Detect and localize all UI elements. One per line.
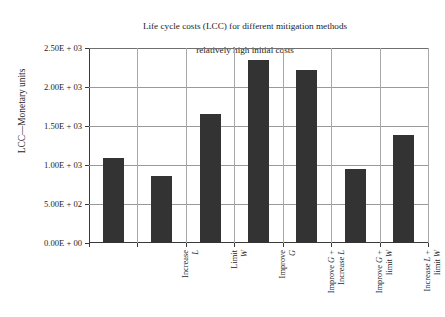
bar	[103, 158, 124, 243]
y-tick-mark	[85, 165, 89, 166]
y-tick-mark	[85, 204, 89, 205]
bar	[248, 60, 269, 243]
x-tick-mark	[137, 243, 138, 247]
x-tick-mark	[331, 243, 332, 247]
x-tick-mark	[186, 243, 187, 247]
gridline-vertical	[283, 48, 284, 243]
gridline-vertical	[234, 48, 235, 243]
y-tick-label: 2.50E + 03	[44, 43, 82, 53]
gridline-vertical	[186, 48, 187, 243]
y-tick-mark	[85, 87, 89, 88]
y-tick-label: 5.00E + 02	[44, 199, 82, 209]
plot-area: 0.00E + 005.00E + 021.00E + 031.50E + 03…	[89, 48, 428, 243]
x-tick-mark	[380, 243, 381, 247]
x-tick-mark	[428, 243, 429, 247]
x-category-label: Limit W	[230, 250, 249, 314]
bar	[345, 169, 366, 243]
x-category-label: Improve G +Increase L	[327, 250, 346, 314]
x-category-label: Increase L +limit W	[423, 250, 442, 314]
y-tick-mark	[85, 126, 89, 127]
gridline-vertical	[380, 48, 381, 243]
bar	[151, 176, 172, 243]
y-tick-label: 0.00E + 00	[44, 238, 82, 248]
gridline-vertical	[428, 48, 429, 243]
x-tick-mark	[283, 243, 284, 247]
y-tick-label: 1.00E + 03	[44, 160, 82, 170]
gridline-vertical	[137, 48, 138, 243]
x-category-label: Improve G +limit W	[375, 250, 394, 314]
bar	[296, 70, 317, 243]
chart-screenshot: Life cycle costs (LCC) for different mit…	[0, 0, 445, 317]
x-tick-mark	[89, 243, 90, 247]
y-tick-mark	[85, 48, 89, 49]
gridline-horizontal	[89, 48, 428, 49]
x-category-label: Improve G	[278, 250, 297, 314]
gridline-vertical	[331, 48, 332, 243]
x-category-label: Increase L	[181, 250, 200, 314]
y-axis-line	[89, 48, 90, 243]
y-axis-title: LCC—Monetary units	[17, 51, 27, 171]
y-tick-label: 2.00E + 03	[44, 82, 82, 92]
x-tick-mark	[234, 243, 235, 247]
bar	[393, 135, 414, 243]
y-tick-label: 1.50E + 03	[44, 121, 82, 131]
bar	[200, 114, 221, 243]
chart-title-line-1: Life cycle costs (LCC) for different mit…	[143, 21, 347, 31]
